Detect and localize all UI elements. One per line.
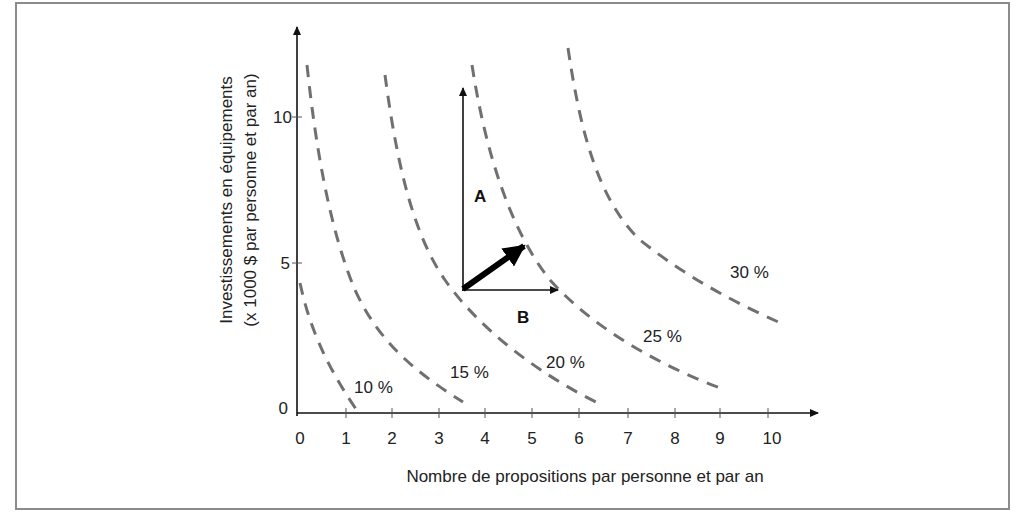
arrow-b-label: B (517, 308, 529, 327)
y-tick-label: 5 (281, 254, 290, 273)
x-axis-title: Nombre de propositions par personne et p… (406, 467, 763, 486)
x-tick-label: 1 (341, 429, 350, 448)
chart-canvas: 0 1 2 3 4 5 6 7 8 9 10 0 5 10 Nombre de … (0, 0, 1024, 527)
curve-label-15: 15 % (450, 363, 489, 382)
curve-label-30: 30 % (730, 263, 769, 282)
curve-label-20: 20 % (546, 353, 585, 372)
x-tick-label: 6 (574, 429, 583, 448)
curve-25-percent (472, 65, 720, 388)
x-tick-label: 3 (434, 429, 443, 448)
y-tick-labels: 0 5 10 (273, 108, 292, 418)
iso-curves (300, 48, 785, 412)
x-tick-label: 2 (387, 429, 396, 448)
y-axis-title-line2: (x 1000 $ par personne et par an) (241, 73, 260, 326)
x-tick-label: 10 (763, 429, 782, 448)
arrow-resultant (463, 246, 524, 289)
y-axis-title-line1: Investissements en équipements (217, 76, 236, 324)
x-tick-label: 8 (670, 429, 679, 448)
x-tick-label: 5 (527, 429, 536, 448)
x-tick-labels: 0 1 2 3 4 5 6 7 8 9 10 (295, 429, 781, 448)
x-tick-label: 4 (480, 429, 489, 448)
x-tick-label: 7 (623, 429, 632, 448)
curve-labels: 10 % 15 % 20 % 25 % 30 % (354, 263, 769, 397)
curve-10-percent (300, 283, 358, 412)
curve-15-percent (307, 65, 463, 402)
arrow-a-label: A (474, 187, 486, 206)
x-tick-label: 9 (715, 429, 724, 448)
y-tick-label: 0 (279, 399, 288, 418)
y-tick-label: 10 (273, 108, 292, 127)
curve-label-25: 25 % (643, 327, 682, 346)
curve-30-percent (568, 48, 785, 325)
curve-label-10: 10 % (354, 378, 393, 397)
x-tick-label: 0 (295, 429, 304, 448)
